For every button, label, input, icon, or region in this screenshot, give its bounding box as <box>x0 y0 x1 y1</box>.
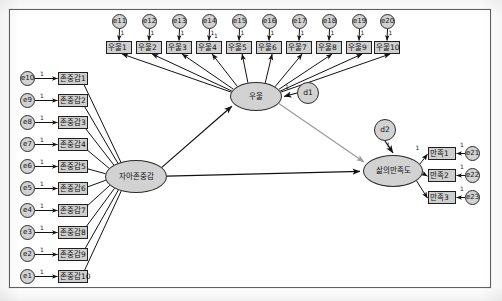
weight-e7: 1 <box>40 137 44 143</box>
error-circle-e22: e22 <box>465 168 480 183</box>
indicator-box-우울5: 우울5 <box>226 41 252 54</box>
indicator-box-존중감3: 존중감3 <box>58 116 88 129</box>
weight-e17: 1 <box>301 30 305 36</box>
error-circle-e8: e8 <box>20 115 35 130</box>
error-to-우울10 <box>387 29 388 41</box>
weight-e19: 1 <box>361 30 365 36</box>
weight-e13: 1 <box>181 30 185 36</box>
error-circle-e11: e11 <box>112 14 127 29</box>
weight-e22: 1 <box>460 164 464 170</box>
error-circle-e10: e10 <box>20 71 35 86</box>
error-circle-e18: e18 <box>322 14 337 29</box>
indicator-box-우울6: 우울6 <box>256 41 282 54</box>
error-circle-e19: e19 <box>352 14 367 29</box>
indicator-box-우울4: 우울4 <box>196 41 222 54</box>
indicator-box-우울7: 우울7 <box>286 41 312 54</box>
weight-e5: 1 <box>40 181 44 187</box>
error-circle-e3: e3 <box>20 225 35 240</box>
error-circle-e5: e5 <box>20 181 35 196</box>
weight-e2: 1 <box>40 247 44 253</box>
indicator-box-만족2: 만족2 <box>428 169 456 182</box>
error-circle-e7: e7 <box>20 137 35 152</box>
weight-d1: 1 <box>285 84 289 90</box>
error-circle-e2: e2 <box>20 247 35 262</box>
weight-loading-만족1: 1 <box>416 145 420 151</box>
error-circle-e13: e13 <box>172 14 187 29</box>
weight-e23: 1 <box>460 186 464 192</box>
weight-e12: 1 <box>151 30 155 36</box>
error-circle-e17: e17 <box>292 14 307 29</box>
error-circle-e9: e9 <box>20 93 35 108</box>
loading-depression-우울9 <box>280 54 362 91</box>
loading-depression-우울2 <box>152 54 232 91</box>
weight-e8: 1 <box>40 115 44 121</box>
weight-e21: 1 <box>460 142 464 148</box>
indicator-box-우울10: 우울10 <box>374 41 400 54</box>
indicator-box-우울3: 우울3 <box>166 41 192 54</box>
error-circle-e6: e6 <box>20 159 35 174</box>
error-to-우울7 <box>299 29 300 41</box>
loading-satisfaction-만족3 <box>417 181 428 198</box>
loading-satisfaction-만족1 <box>420 154 428 164</box>
error-circle-e20: e20 <box>380 14 395 29</box>
diagram-canvas: e11우울11e12우울21e13우울31e14우울41e15우울51e16우울… <box>0 0 502 301</box>
indicator-box-우울2: 우울2 <box>136 41 162 54</box>
latent-depression: 우울 <box>230 82 282 111</box>
error-to-우울5 <box>239 29 240 41</box>
indicator-box-존중감8: 존중감8 <box>58 226 88 239</box>
weight-e4: 1 <box>40 203 44 209</box>
weight-e11: 1 <box>121 30 125 36</box>
structural-esteem-to-satisfaction <box>167 171 360 176</box>
error-circle-e1: e1 <box>20 269 35 284</box>
error-to-우울1 <box>119 29 120 41</box>
loading-depression-우울7 <box>275 54 302 87</box>
error-circle-e16: e16 <box>262 14 277 29</box>
weight-e18: 1 <box>331 30 335 36</box>
indicator-box-존중감1: 존중감1 <box>58 72 88 85</box>
indicator-box-만족1: 만족1 <box>428 147 456 160</box>
loading-depression-우울1 <box>122 54 231 92</box>
weight-d2: 1 <box>387 142 391 148</box>
loading-depression-우울6 <box>265 54 272 83</box>
indicator-box-존중감2: 존중감2 <box>58 94 88 107</box>
indicator-box-우울9: 우울9 <box>346 41 372 54</box>
error-to-우울3 <box>179 29 180 41</box>
indicator-box-우울1: 우울1 <box>106 41 132 54</box>
weight-e3: 1 <box>40 225 44 231</box>
structural-depression-to-satisfaction <box>279 103 364 161</box>
error-to-우울4 <box>209 29 210 41</box>
error-circle-e4: e4 <box>20 203 35 218</box>
error-to-우울9 <box>359 29 360 41</box>
weight-e10: 1 <box>40 71 44 77</box>
error-circle-e23: e23 <box>465 190 480 205</box>
indicator-box-만족3: 만족3 <box>428 191 456 204</box>
error-circle-e21: e21 <box>465 146 480 161</box>
loading-esteem-존중감2 <box>81 101 117 163</box>
disturbance-d1-to-depression <box>284 93 297 97</box>
latent-life_satisfaction: 삶의만족도 <box>363 155 423 187</box>
indicator-box-우울8: 우울8 <box>316 41 342 54</box>
structural-esteem-to-depression <box>162 106 232 167</box>
weight-e1: 1 <box>40 269 44 275</box>
weight-e15: 1 <box>241 30 245 36</box>
indicator-box-존중감5: 존중감5 <box>58 160 88 173</box>
error-circle-e15: e15 <box>232 14 247 29</box>
error-circle-e12: e12 <box>142 14 157 29</box>
latent-self_esteem: 자아존중감 <box>105 160 167 193</box>
error-to-우울6 <box>269 29 270 41</box>
disturbance-d2: d2 <box>374 119 396 141</box>
indicator-box-존중감6: 존중감6 <box>58 182 88 195</box>
error-to-우울8 <box>329 29 330 41</box>
weight-e9: 1 <box>40 93 44 99</box>
weight-e6: 1 <box>40 159 44 165</box>
loading-depression-우울4 <box>212 54 237 86</box>
loading-esteem-존중감9 <box>81 190 118 255</box>
weight-e20: 1 <box>389 30 393 36</box>
weight-depression-first-loading: 1 <box>214 33 218 39</box>
indicator-box-존중감9: 존중감9 <box>58 248 88 261</box>
loading-depression-우울5 <box>242 54 248 83</box>
indicator-box-존중감10: 존중감10 <box>58 270 88 283</box>
indicator-box-존중감7: 존중감7 <box>58 204 88 217</box>
weight-e16: 1 <box>271 30 275 36</box>
error-circle-e14: e14 <box>202 14 217 29</box>
